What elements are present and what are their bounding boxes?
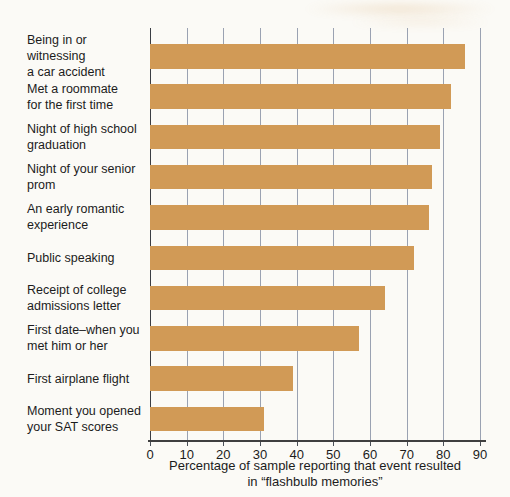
category-label: Moment you opened your SAT scores	[27, 403, 147, 435]
category-label: Night of your senior prom	[27, 161, 147, 193]
category-label: Night of high school graduation	[27, 121, 147, 153]
category-label: Being in or witnessing a car accident	[27, 32, 147, 80]
category-label: First airplane flight	[27, 371, 147, 387]
category-label: First date–when you met him or her	[27, 322, 147, 354]
category-label: Receipt of college admissions letter	[27, 282, 147, 314]
x-axis-caption-line1: Percentage of sample reporting that even…	[150, 458, 480, 474]
x-axis-line	[148, 440, 486, 442]
gridline-90	[480, 28, 481, 441]
bar	[150, 407, 264, 432]
bar	[150, 246, 414, 271]
bar	[150, 326, 359, 351]
scan-smudge-artifact	[345, 17, 495, 27]
bar	[150, 44, 465, 69]
bar	[150, 84, 451, 109]
scan-smudge-artifact	[300, 2, 500, 16]
x-axis-caption: Percentage of sample reporting that even…	[150, 458, 480, 490]
bar	[150, 205, 429, 230]
category-label: An early romantic experience	[27, 201, 147, 233]
bar	[150, 165, 432, 190]
bar	[150, 286, 385, 311]
flashbulb-memories-bar-chart: 0102030405060708090Being in or witnessin…	[0, 0, 510, 497]
category-label: Met a roommate for the first time	[27, 81, 147, 113]
bar	[150, 366, 293, 391]
category-label: Public speaking	[27, 250, 147, 266]
x-axis-caption-line2: in “flashbulb memories”	[150, 474, 480, 490]
bar	[150, 125, 440, 150]
